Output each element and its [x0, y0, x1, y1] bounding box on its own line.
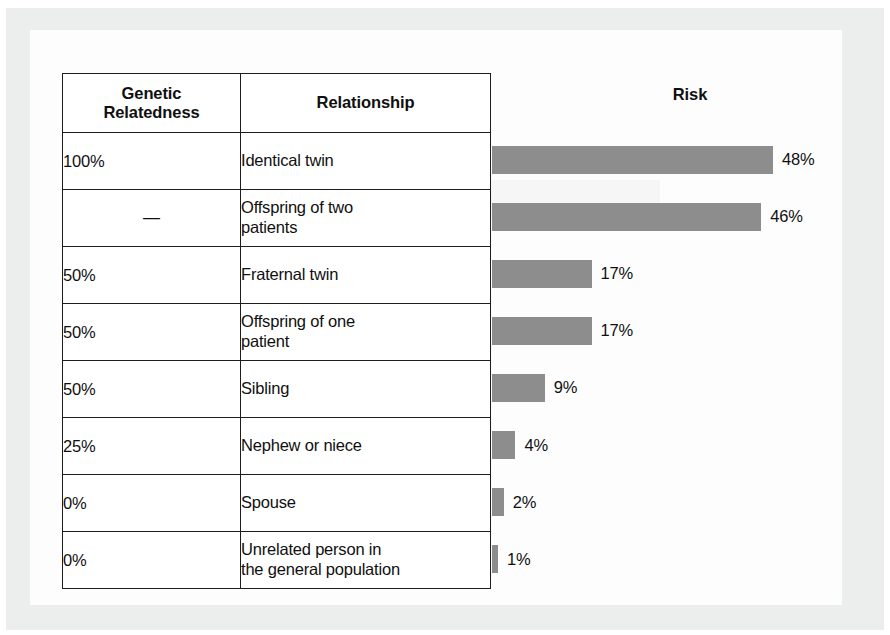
cell-relationship-line1: Identical twin: [241, 151, 490, 171]
bar-row: 48%: [492, 131, 872, 188]
cell-relationship: Offspring of onepatient: [241, 304, 491, 361]
table-row: 0%Spouse: [63, 475, 491, 532]
cell-relationship: Nephew or niece: [241, 418, 491, 475]
risk-bar-label: 2%: [513, 493, 536, 512]
table-row: 50%Sibling: [63, 361, 491, 418]
cell-relationship-line1: Sibling: [241, 379, 490, 399]
cell-relationship-line2: patients: [241, 218, 490, 238]
cell-relationship-line1: Offspring of one: [241, 312, 490, 332]
cell-relationship-line1: Fraternal twin: [241, 265, 490, 285]
cell-genetic-relatedness: 50%: [63, 361, 241, 418]
risk-bar: [492, 545, 498, 573]
risk-bar-label: 4%: [524, 436, 547, 455]
cell-relationship: Identical twin: [241, 133, 491, 190]
cell-genetic-relatedness: 25%: [63, 418, 241, 475]
risk-bar: [492, 260, 592, 288]
risk-figure: Genetic Relatedness Relationship 100%Ide…: [0, 0, 890, 635]
column-header-genetic-relatedness-line1: Genetic: [63, 84, 240, 103]
table-body: 100%Identical twin—Offspring of twopatie…: [63, 133, 491, 589]
risk-bar: [492, 146, 773, 174]
table-header-row: Genetic Relatedness Relationship: [63, 74, 491, 133]
risk-bar-label: 1%: [507, 550, 530, 569]
risk-bar-label: 17%: [601, 264, 633, 283]
table-row: —Offspring of twopatients: [63, 190, 491, 247]
bar-row: 46%: [492, 188, 872, 245]
cell-genetic-relatedness: 0%: [63, 532, 241, 589]
table-row: 50%Offspring of onepatient: [63, 304, 491, 361]
bar-row: 4%: [492, 416, 872, 473]
risk-bar-label: 17%: [601, 321, 633, 340]
risk-bar: [492, 488, 504, 516]
bar-row: 9%: [492, 359, 872, 416]
cell-relationship: Spouse: [241, 475, 491, 532]
risk-bar-label: 46%: [770, 207, 802, 226]
table-row: 25%Nephew or niece: [63, 418, 491, 475]
cell-relationship-line2: the general population: [241, 560, 490, 580]
column-header-relationship: Relationship: [241, 74, 491, 133]
bar-row: 2%: [492, 474, 872, 531]
cell-relationship: Fraternal twin: [241, 247, 491, 304]
bar-row: 17%: [492, 245, 872, 302]
cell-relationship-line1: Unrelated person in: [241, 540, 490, 560]
column-header-genetic-relatedness-line2: Relatedness: [63, 103, 240, 122]
column-header-risk: Risk: [560, 85, 820, 104]
cell-relationship: Unrelated person inthe general populatio…: [241, 532, 491, 589]
cell-genetic-relatedness: 50%: [63, 304, 241, 361]
risk-bar: [492, 203, 761, 231]
cell-genetic-relatedness: —: [63, 190, 241, 247]
cell-relationship: Offspring of twopatients: [241, 190, 491, 247]
cell-genetic-relatedness: 50%: [63, 247, 241, 304]
risk-bar: [492, 374, 545, 402]
cell-relationship-line1: Nephew or niece: [241, 436, 490, 456]
cell-relationship-line1: Offspring of two: [241, 198, 490, 218]
cell-relationship: Sibling: [241, 361, 491, 418]
risk-bar: [492, 431, 515, 459]
scan-frame: Genetic Relatedness Relationship 100%Ide…: [0, 0, 890, 635]
cell-relationship-line1: Spouse: [241, 493, 490, 513]
table-row: 50%Fraternal twin: [63, 247, 491, 304]
risk-table: Genetic Relatedness Relationship 100%Ide…: [62, 73, 491, 589]
risk-bar-label: 48%: [782, 150, 814, 169]
risk-bar-label: 9%: [554, 378, 577, 397]
bar-row: 17%: [492, 302, 872, 359]
column-header-genetic-relatedness: Genetic Relatedness: [63, 74, 241, 133]
risk-bar-chart: 48%46%17%17%9%4%2%1%: [492, 131, 872, 588]
bar-row: 1%: [492, 531, 872, 588]
cell-genetic-relatedness: 0%: [63, 475, 241, 532]
cell-relationship-line2: patient: [241, 332, 490, 352]
cell-genetic-relatedness: 100%: [63, 133, 241, 190]
table-row: 100%Identical twin: [63, 133, 491, 190]
risk-bar: [492, 317, 592, 345]
table-row: 0%Unrelated person inthe general populat…: [63, 532, 491, 589]
